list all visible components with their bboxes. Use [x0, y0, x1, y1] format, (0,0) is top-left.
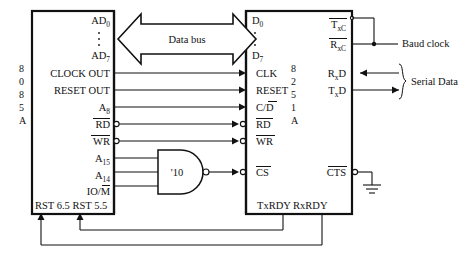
cpu-id-char-3: 5 [19, 102, 24, 113]
usart-id-char-1: 2 [291, 76, 296, 87]
usart-pin-wr: WR [256, 136, 273, 147]
usart-pin-cs: CS [256, 167, 269, 178]
usart-pin-clk: CLK [256, 68, 277, 79]
cpu-pin-a15: A15 [95, 153, 110, 167]
usart-pin-rxc: RxC [330, 39, 346, 53]
cpu-ad-ellipsis-dot [98, 38, 100, 40]
cpu-pin-rd: RD [95, 119, 110, 130]
usart-bottom-pins-label: TxRDY RxRDY [257, 200, 328, 211]
usart-id-char-2: 5 [291, 89, 296, 100]
cpu-rd-bubble-icon [114, 121, 119, 126]
usart-rd-bubble-icon [240, 121, 245, 126]
cpu-id-char-2: 8 [19, 89, 24, 100]
cpu-bottom-pins-label: RST 6.5 RST 5.5 [35, 200, 107, 211]
arrow-usart-rd [232, 121, 239, 128]
cpu-pin-wr: WR [93, 136, 110, 147]
usart-pin-rxd: RxD [328, 68, 347, 82]
serial-data-label: Serial Data [411, 76, 458, 87]
cpu-id-char-0: 8 [19, 63, 24, 74]
cpu-id-char-1: 0 [19, 76, 24, 87]
cpu-id-char-4: A [19, 115, 27, 126]
schematic-svg: 8 0 8 5 A AD0 AD7 CLOCK OUT RESET OUT A8… [0, 0, 467, 258]
usart-id-char-3: 1 [291, 102, 296, 113]
diagram-canvas: 8 0 8 5 A AD0 AD7 CLOCK OUT RESET OUT A8… [0, 0, 467, 258]
usart-cs-bubble-icon [240, 169, 245, 174]
cpu-pin-ad7: AD7 [91, 50, 110, 64]
cpu-pin-reset-out: RESET OUT [54, 85, 111, 96]
cpu-ad-ellipsis-dot [98, 32, 100, 34]
usart-id-char-0: 8 [291, 63, 296, 74]
usart-pin-reset: RESET [256, 85, 289, 96]
cpu-pin-a8: A8 [99, 102, 111, 116]
usart-pin-txc: TxC [331, 19, 346, 33]
usart-pin-d7: D7 [252, 50, 264, 64]
nand-gate-output-bubble-icon [203, 169, 209, 175]
usart-wr-bubble-icon [240, 138, 245, 143]
usart-pin-c-d: C/D [256, 102, 274, 113]
usart-pin-txd: TxD [328, 85, 346, 99]
usart-d-ellipsis-dot [254, 32, 256, 34]
cpu-ad-ellipsis-dot [98, 44, 100, 46]
serial-data-brace [399, 64, 406, 99]
usart-pin-d0: D0 [252, 15, 264, 29]
cpu-pin-clock-out: CLOCK OUT [50, 68, 110, 79]
arrow-cs [232, 169, 239, 176]
nand-gate-label: '10 [171, 167, 183, 178]
cpu-pin-a14: A14 [95, 170, 110, 184]
arrow-usart-wr [232, 138, 239, 145]
usart-pin-rd: RD [256, 119, 271, 130]
usart-d-ellipsis-dot [254, 44, 256, 46]
cpu-wr-bubble-icon [114, 138, 119, 143]
usart-id-char-4: A [291, 115, 299, 126]
arrow-rxd-in [360, 70, 367, 77]
usart-pin-cts: CTS [327, 167, 346, 178]
baud-clock-label: Baud clock [402, 38, 450, 49]
cpu-pin-io-m: IO/M [87, 186, 111, 197]
cts-bubble-icon [352, 169, 357, 174]
data-bus-label: Data bus [168, 34, 205, 45]
arrow-txd-out [392, 87, 399, 94]
cpu-pin-ad0: AD0 [91, 15, 110, 29]
